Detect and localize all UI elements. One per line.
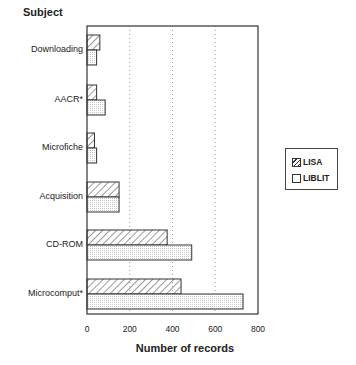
bar-liblit bbox=[87, 100, 105, 115]
x-tick-label: 200 bbox=[115, 324, 145, 334]
x-axis-title: Number of records bbox=[0, 342, 356, 354]
bar-liblit bbox=[87, 148, 97, 163]
x-tick-label: 400 bbox=[158, 324, 188, 334]
bar-lisa bbox=[87, 35, 100, 50]
category-label: Microfiche bbox=[42, 142, 83, 152]
x-tick-label: 800 bbox=[243, 324, 273, 334]
bar-lisa bbox=[87, 182, 119, 197]
category-label: AACR* bbox=[54, 94, 83, 104]
legend: LISA LIBLIT bbox=[285, 148, 338, 190]
x-tick-label: 600 bbox=[200, 324, 230, 334]
bar-lisa bbox=[87, 230, 167, 245]
bar-lisa bbox=[87, 279, 181, 294]
bar-liblit bbox=[87, 294, 243, 309]
bar-lisa bbox=[87, 133, 94, 148]
bar-liblit bbox=[87, 50, 97, 65]
category-label: CD-ROM bbox=[46, 239, 83, 249]
x-tick-label: 0 bbox=[72, 324, 102, 334]
bar-lisa bbox=[87, 85, 97, 100]
category-label: Acquisition bbox=[39, 191, 83, 201]
legend-item-lisa: LISA bbox=[292, 157, 322, 167]
bar-liblit bbox=[87, 197, 119, 212]
category-label: Downloading bbox=[31, 44, 83, 54]
bar-liblit bbox=[87, 245, 192, 260]
hatch-swatch-icon bbox=[292, 158, 301, 167]
legend-item-liblit: LIBLIT bbox=[292, 173, 329, 183]
category-label: Microcomput* bbox=[28, 288, 83, 298]
empty-swatch-icon bbox=[292, 174, 301, 183]
